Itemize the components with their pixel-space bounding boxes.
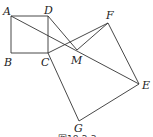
label-b: B: [3, 56, 12, 69]
label-e: E: [141, 79, 150, 92]
segment-ae: [11, 16, 139, 84]
label-m: M: [70, 54, 83, 67]
square-abcd: [11, 16, 48, 53]
segment-dm: [48, 16, 77, 50]
label-c: C: [41, 56, 50, 69]
figure-caption: 图18-2-3: [58, 134, 96, 137]
square-cfeg: [48, 23, 139, 121]
label-d: D: [43, 4, 53, 17]
label-f: F: [105, 9, 114, 22]
label-a: A: [2, 5, 11, 18]
geometry-figure: A D B C M F E G 图18-2-3: [0, 0, 153, 137]
